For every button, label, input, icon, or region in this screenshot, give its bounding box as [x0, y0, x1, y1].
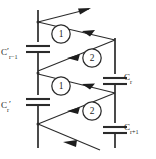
- capacitor-label-c-r: Cr: [124, 73, 132, 84]
- switch-marker-phase-1-lower[interactable]: 1: [52, 77, 70, 95]
- switch-marker-phase-2-lower[interactable]: 2: [83, 102, 101, 120]
- switch-marker-phase-2-upper[interactable]: 2: [83, 49, 101, 67]
- capacitor-label-c-r-subscript: r: [130, 78, 132, 85]
- arrowhead-phase-2-upper: [67, 54, 80, 61]
- circuit-schematic-canvas: 1 2 1 2: [0, 0, 156, 159]
- capacitor-label-c-r-prime-prime: ′: [9, 99, 11, 109]
- switch-branch-bottom-in: [38, 124, 100, 150]
- switch-branch-phase-2-lower: [38, 93, 115, 124]
- capacitor-label-c-r-prime: Cr′: [1, 101, 11, 112]
- node-dot-middle: [37, 72, 40, 75]
- capacitor-label-c-r-plus-1-subscript: r+1: [130, 128, 139, 135]
- switch-branch-top-out: [38, 8, 91, 22]
- node-dot-lower: [37, 123, 40, 126]
- node-dot-upper: [37, 21, 40, 24]
- switch-marker-phase-1-upper[interactable]: 1: [52, 25, 70, 43]
- arrowhead-top-out: [78, 8, 91, 15]
- arrowhead-bottom-in: [63, 140, 77, 147]
- switch-label-phase-1-lower: 1: [59, 81, 64, 91]
- switch-line-bottom-in: [38, 124, 100, 150]
- circuit-diagram: 1 2 1 2 C′r−1 Cr′ Cr Cr+1: [0, 0, 156, 159]
- switch-label-phase-2-upper: 2: [90, 53, 95, 63]
- switch-label-phase-2-lower: 2: [90, 106, 95, 116]
- switch-branch-phase-2-upper: [38, 40, 115, 71]
- capacitor-label-c-r-plus-1: Cr+1: [124, 123, 139, 134]
- capacitor-label-c-r-minus-1-subscript: r−1: [9, 53, 18, 60]
- arrowhead-phase-2-lower: [67, 107, 80, 114]
- arrowhead-phase-1-lower: [82, 84, 95, 90]
- switch-branch-phase-1-upper: [38, 22, 115, 40]
- capacitor-label-c-r-minus-1: C′r−1: [1, 48, 18, 59]
- switch-line-phase-1-upper: [38, 22, 115, 40]
- switch-label-phase-1-upper: 1: [59, 29, 64, 39]
